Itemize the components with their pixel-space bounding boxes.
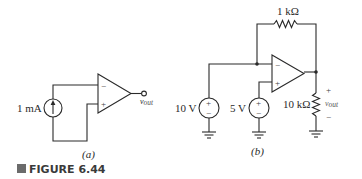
wire-a-bottom	[53, 104, 98, 141]
opamp-a-plus: +	[101, 99, 106, 109]
feedback-resistor	[274, 21, 297, 28]
junction-node-minus	[255, 62, 259, 66]
opamp-b-plus: +	[275, 78, 280, 88]
opamp-a-minus: −	[101, 81, 106, 91]
caption-a: (a)	[82, 148, 95, 161]
opamp-b-minus: −	[275, 60, 280, 70]
circuit-b: 1 kΩ + − 10 V + − 5 V − +	[175, 5, 339, 158]
source-10v-minus: −	[206, 108, 211, 118]
feedback-resistor-label: 1 kΩ	[277, 5, 299, 17]
source-10v-label: 10 V	[175, 102, 197, 114]
circuit-a: 1 mA − + vout (a)	[17, 74, 154, 161]
load-resistor-label: 10 kΩ	[283, 98, 310, 110]
wire-b-10v	[209, 64, 272, 98]
output-terminal-a	[142, 91, 147, 96]
source-5v-label: 5 V	[230, 102, 246, 114]
source-10v-plus: +	[206, 98, 211, 108]
ground-icon	[202, 132, 216, 138]
output-b-plus: +	[326, 85, 331, 95]
ground-icon	[309, 131, 323, 137]
figure-marker-icon	[17, 164, 26, 173]
wire-b-5v	[259, 82, 272, 98]
ground-icon	[252, 132, 266, 138]
wire-a-top	[53, 85, 98, 99]
wire-b-feedback-right	[297, 24, 316, 72]
output-a-label: vout	[140, 97, 154, 107]
figure-label: FIGURE 6.44	[29, 163, 106, 176]
figure-canvas: 1 mA − + vout (a) 1 kΩ + − 10 V +	[0, 0, 362, 179]
output-b-minus: −	[326, 112, 331, 122]
load-resistor	[313, 93, 320, 116]
source-5v-minus: −	[256, 108, 261, 118]
output-b-label: vout	[325, 99, 339, 109]
caption-b: (b)	[251, 145, 264, 158]
current-source-a-label: 1 mA	[17, 102, 42, 114]
arrow-up-icon	[51, 100, 56, 114]
source-5v-plus: +	[256, 98, 261, 108]
